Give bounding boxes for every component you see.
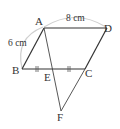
label-b: B bbox=[12, 64, 19, 76]
segment-ab bbox=[22, 28, 44, 69]
label-f: F bbox=[57, 111, 63, 123]
label-ad-length: 8 cm bbox=[66, 13, 85, 23]
parallelogram-diagram: A D B C E F 8 cm 6 cm bbox=[0, 0, 120, 129]
label-d: D bbox=[104, 22, 112, 34]
label-c: C bbox=[85, 67, 92, 79]
label-ab-length: 6 cm bbox=[8, 38, 27, 48]
label-e: E bbox=[44, 71, 51, 83]
segment-cf bbox=[61, 69, 85, 111]
label-a: A bbox=[35, 15, 43, 27]
segment-dc bbox=[85, 28, 107, 69]
